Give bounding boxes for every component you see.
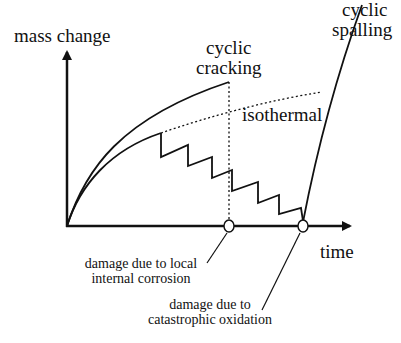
- x-axis-label: time: [320, 242, 354, 262]
- cyclic-spalling-label-line1: cyclic: [342, 0, 387, 20]
- local-corrosion-annotation: damage due to local internal corrosion: [76, 257, 206, 286]
- catastrophic-oxidation-annotation: damage due to catastrophic oxidation: [135, 298, 285, 327]
- cyclic-cracking-label: cyclic: [206, 38, 251, 58]
- cyclic-cracking-curve: [67, 82, 229, 226]
- local-corrosion-leader: [207, 233, 227, 263]
- catastrophic-oxidation-line1: damage due to: [135, 298, 285, 313]
- catastrophic-oxidation-line2: catastrophic oxidation: [135, 313, 285, 328]
- oxidation-mass-change-diagram: [0, 0, 401, 343]
- cyclic-cracking-label-line1: cyclic: [206, 38, 251, 58]
- isothermal-label: isothermal: [242, 105, 322, 125]
- y-axis-label: mass change: [14, 26, 111, 46]
- local-corrosion-marker: [224, 220, 234, 232]
- catastrophic-oxidation-marker: [298, 220, 308, 232]
- cyclic-spalling-label-line2: spalling: [332, 20, 392, 40]
- local-corrosion-line2: internal corrosion: [76, 272, 206, 287]
- cyclic-cracking-label-line2: cracking: [196, 58, 261, 78]
- cyclic-sawtooth-curve: [161, 133, 303, 221]
- local-corrosion-line1: damage due to local: [76, 257, 206, 272]
